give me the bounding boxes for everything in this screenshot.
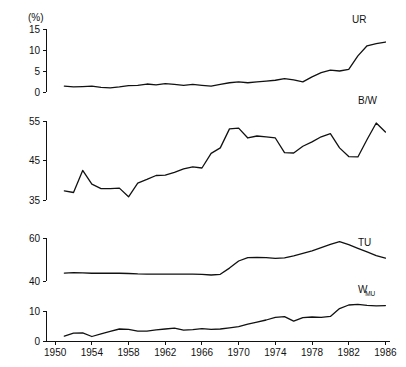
y-tick-label-tu-40: 40 [29,276,41,287]
x-tick-label-1950: 1950 [44,347,67,358]
y-tick-label-ur-15: 15 [29,24,41,35]
series-line-tu [64,242,385,275]
series-line-bw [64,123,385,197]
series-line-ur [64,42,385,88]
y-tick-label-bw-35: 35 [29,195,41,206]
panel-tu: 4060TU [29,233,386,287]
x-tick-label-1986: 1986 [374,347,397,358]
series-label-tu: TU [358,237,371,248]
x-tick-label-1982: 1982 [338,347,361,358]
y-tick-label-bw-45: 45 [29,155,41,166]
series-label-bw: B/W [358,95,377,106]
y-tick-label-bw-55: 55 [29,116,41,127]
panel-wmu: 010WMU [29,284,386,347]
x-tick-label-1954: 1954 [81,347,104,358]
x-tick-label-1978: 1978 [301,347,324,358]
y-tick-label-ur-10: 10 [29,45,41,56]
y-axis-tu [43,238,46,281]
y-tick-label-ur-5: 5 [34,66,40,77]
y-tick-label-tu-60: 60 [29,233,41,244]
panel-ur: 051015UR [29,14,386,97]
x-tick-label-1958: 1958 [117,347,140,358]
panel-bw: 354555B/W [29,95,386,205]
y-tick-label-wmu-10: 10 [29,306,41,317]
y-tick-label-ur-0: 0 [34,87,40,98]
y-axis-unit-label: (%) [28,12,44,23]
x-axis: 1950195419581962196619701974197819821986 [44,341,397,358]
y-axis-wmu [43,311,46,341]
y-tick-label-wmu-0: 0 [34,336,40,347]
series-sublabel-wmu: MU [365,290,375,297]
x-tick-label-1966: 1966 [191,347,214,358]
x-tick-label-1974: 1974 [264,347,287,358]
series-label-ur: UR [352,14,366,25]
y-axis-ur [43,29,46,92]
x-tick-label-1962: 1962 [154,347,177,358]
multi-panel-line-chart: 051015UR354555B/W4060TU010WMU(%)19501954… [0,0,406,367]
x-tick-label-1970: 1970 [228,347,251,358]
figure-container: 051015UR354555B/W4060TU010WMU(%)19501954… [0,0,406,367]
series-line-wmu [64,304,385,336]
